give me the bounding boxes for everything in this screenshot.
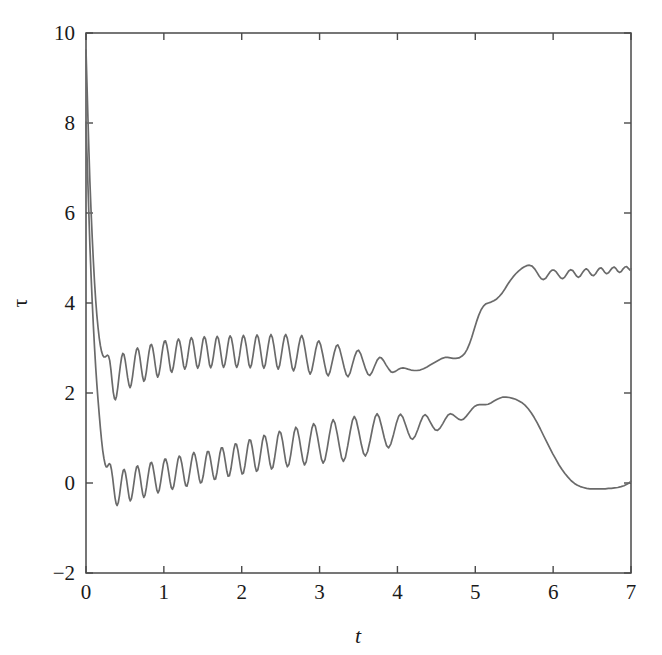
x-tick-label-5: 5: [470, 580, 481, 604]
y-tick-label-2: 2: [65, 381, 76, 405]
plot-area: [86, 33, 631, 573]
y-tick-label-−2: −2: [53, 561, 75, 585]
x-tick-label-2: 2: [236, 580, 247, 604]
x-tick-label-6: 6: [548, 580, 559, 604]
x-tick-label-4: 4: [392, 580, 403, 604]
plot-background: [86, 33, 631, 573]
x-tick-label-0: 0: [81, 580, 92, 604]
chart-svg: 01234567 −20246810 t τ: [0, 0, 662, 655]
y-tick-label-10: 10: [54, 21, 75, 45]
y-tick-label-8: 8: [65, 111, 76, 135]
x-tick-label-3: 3: [314, 580, 325, 604]
y-tick-label-6: 6: [65, 201, 76, 225]
y-axis-title: τ: [7, 298, 32, 307]
figure-container: 01234567 −20246810 t τ: [0, 0, 662, 655]
x-tick-label-1: 1: [159, 580, 170, 604]
x-axis-title: t: [355, 623, 362, 648]
x-tick-label-7: 7: [626, 580, 637, 604]
y-tick-label-4: 4: [65, 291, 76, 315]
y-tick-label-0: 0: [65, 471, 76, 495]
